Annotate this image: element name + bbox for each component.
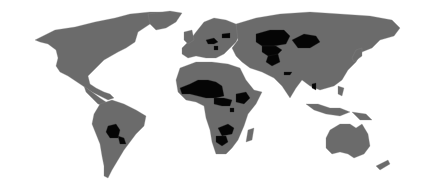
philippines [338,86,344,96]
new-zealand [376,160,390,170]
region-uganda[interactable] [230,108,234,112]
region-car-south-sudan[interactable] [214,98,232,106]
region-balkans[interactable] [214,46,218,50]
greenland [148,11,182,30]
indonesia [306,104,350,116]
world-map [0,0,434,194]
region-belarus[interactable] [222,33,230,38]
new-guinea [352,112,372,120]
region-kazakhstan[interactable] [256,30,290,46]
australia [326,124,370,158]
madagascar [246,128,254,142]
region-laos[interactable] [312,83,316,90]
